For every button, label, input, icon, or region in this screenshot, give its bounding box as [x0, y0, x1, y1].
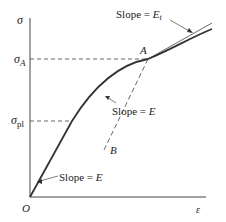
slope-Et-annotation: Slope = Et	[116, 8, 163, 22]
slope-E-middle-arrowhead	[105, 96, 110, 100]
slope-E-middle-annotation: Slope = E	[112, 105, 156, 117]
tangent-line	[148, 23, 212, 59]
sigma-pl-label: σpl	[11, 113, 24, 129]
x-axis-label: ε	[196, 204, 200, 215]
y-axis-label: σ	[17, 13, 24, 27]
point-A-label: A	[139, 44, 147, 56]
slope-E-bottom-annotation: Slope = E	[59, 171, 103, 183]
slope-Et-leader	[170, 20, 191, 32]
origin-label: O	[22, 202, 30, 214]
slope-E-bottom-leader	[40, 176, 58, 181]
slope-Et-arrowhead	[187, 28, 193, 33]
sigma-A-label: σA	[14, 52, 26, 68]
stress-strain-diagram: σ ε O σA σpl A B Slope = Et Slope = E Sl…	[0, 0, 226, 222]
point-B-label: B	[110, 144, 117, 156]
